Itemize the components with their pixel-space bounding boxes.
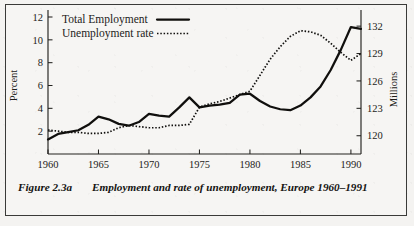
tick-label: 132: [367, 21, 383, 32]
tick-label: 120: [367, 130, 383, 141]
tick-label: 1965: [88, 159, 109, 170]
tick-label: 8: [38, 57, 43, 68]
left-axis-ticks: 24681012: [33, 12, 53, 137]
series-total-employment: [48, 27, 361, 139]
figure-caption-text: Employment and rate of unemployment, Eur…: [92, 181, 387, 195]
tick-label: 1960: [38, 159, 59, 170]
figure-number: Figure 2.3a: [18, 181, 92, 195]
legend-label-total-employment: Total Employment: [62, 13, 149, 26]
tick-label: 129: [367, 48, 383, 59]
legend-label-unemployment-rate: Unemployment rate: [62, 27, 154, 40]
tick-label: 4: [38, 103, 44, 114]
right-axis-title: Millions: [388, 72, 399, 108]
tick-label: 2: [38, 126, 43, 137]
figure-caption: Figure 2.3aEmployment and rate of unempl…: [18, 181, 398, 195]
x-axis-ticks: 1960196519701975198019851990: [38, 150, 362, 171]
tick-label: 126: [367, 76, 383, 87]
left-axis-title: Percent: [8, 70, 19, 102]
tick-label: 1985: [290, 159, 311, 170]
chart-plot-area: 24681012 120123126129132 196019651970197…: [5, 4, 407, 179]
tick-label: 12: [33, 12, 44, 23]
tick-label: 10: [33, 35, 44, 46]
tick-label: 1970: [138, 159, 159, 170]
employment-unemployment-line-chart: 24681012 120123126129132 196019651970197…: [5, 4, 407, 179]
tick-label: 1980: [239, 159, 260, 170]
tick-label: 123: [367, 103, 383, 114]
tick-label: 6: [38, 80, 43, 91]
tick-label: 1990: [340, 159, 361, 170]
tick-label: 1975: [189, 159, 210, 170]
figure-container: 24681012 120123126129132 196019651970197…: [0, 0, 414, 226]
chart-legend: Total Employment Unemployment rate: [62, 13, 189, 40]
